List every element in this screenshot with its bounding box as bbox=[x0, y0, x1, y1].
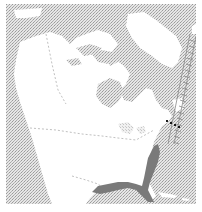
map-canvas bbox=[6, 4, 196, 204]
range-map bbox=[6, 4, 196, 204]
occurrence-point bbox=[166, 120, 168, 122]
occurrence-point bbox=[170, 122, 172, 124]
occurrence-point bbox=[174, 124, 176, 126]
occurrence-point bbox=[178, 126, 180, 128]
